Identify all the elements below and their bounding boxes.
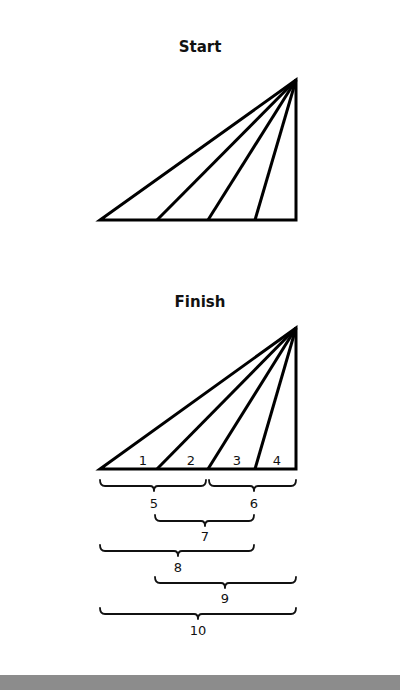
outer-triangle <box>100 328 296 469</box>
triangle-label: 4 <box>273 453 281 468</box>
brace-5: 5 <box>100 480 206 511</box>
triangle-label: 3 <box>233 453 241 468</box>
finish-section: Finish 1234 5678910 <box>100 293 296 638</box>
divider-line <box>208 328 296 469</box>
brace-shape <box>155 515 254 526</box>
brace-8: 8 <box>100 545 254 575</box>
brace-shape <box>155 577 296 588</box>
brace-shape <box>100 608 296 619</box>
brace-label: 10 <box>190 623 207 638</box>
brace-label: 7 <box>201 529 209 544</box>
brace-shape <box>100 480 206 491</box>
brace-10: 10 <box>100 608 296 638</box>
brace-9: 9 <box>155 577 296 606</box>
brace-groups: 5678910 <box>100 480 296 638</box>
triangle-label: 1 <box>139 453 147 468</box>
brace-shape <box>209 480 296 491</box>
finish-title: Finish <box>175 293 226 311</box>
footer-bar <box>0 675 400 690</box>
finish-triangle-figure <box>100 328 296 469</box>
outer-triangle <box>100 80 296 220</box>
start-section: Start <box>100 38 296 220</box>
brace-6: 6 <box>209 480 296 511</box>
brace-label: 9 <box>221 591 229 606</box>
start-triangle-figure <box>100 80 296 220</box>
triangle-label: 2 <box>187 453 195 468</box>
start-title: Start <box>179 38 222 56</box>
brace-label: 5 <box>150 496 158 511</box>
divider-line <box>208 80 296 220</box>
triangle-counting-diagram: Start Finish 1234 5678910 <box>0 0 400 692</box>
brace-label: 8 <box>174 560 182 575</box>
brace-7: 7 <box>155 515 254 544</box>
brace-shape <box>100 545 254 556</box>
brace-label: 6 <box>250 496 258 511</box>
